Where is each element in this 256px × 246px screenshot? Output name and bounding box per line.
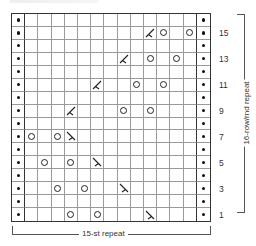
purl-dot-icon: [17, 18, 20, 21]
chart-cell: [144, 14, 157, 27]
chart-cell: [184, 195, 197, 208]
decrease-right-icon: [119, 183, 129, 193]
chart-cell: [38, 53, 51, 66]
chart-cell: [131, 27, 144, 40]
chart-cell: [184, 105, 197, 118]
chart-cell: [170, 79, 183, 92]
chart-cell: [25, 118, 38, 131]
chart-cell: [184, 143, 197, 156]
chart-cell: [12, 169, 25, 182]
purl-dot-icon: [17, 44, 20, 47]
chart-cell: [78, 156, 91, 169]
purl-dot-icon: [17, 200, 20, 203]
chart-cell: [144, 208, 157, 221]
purl-dot-icon: [202, 148, 205, 151]
row-repeat-label: 16-row/rnd repeat: [242, 79, 251, 146]
chart-cell: [131, 14, 144, 27]
chart-cell: [104, 169, 117, 182]
chart-cell: [104, 40, 117, 53]
purl-dot-icon: [202, 213, 205, 216]
chart-cell: [91, 208, 104, 221]
chart-cell: [91, 14, 104, 27]
chart-cell: [52, 130, 65, 143]
chart-cell: [157, 169, 170, 182]
chart-cell: [78, 118, 91, 131]
chart-cell: [38, 118, 51, 131]
chart-cell: [12, 118, 25, 131]
row-number-label: 11: [219, 80, 228, 90]
knitting-chart-grid: [11, 13, 211, 222]
chart-cell: [91, 92, 104, 105]
chart-cell: [78, 40, 91, 53]
chart-cell: [118, 195, 131, 208]
chart-cell: [38, 143, 51, 156]
chart-cell: [184, 208, 197, 221]
chart-cell: [104, 53, 117, 66]
chart-cell: [131, 79, 144, 92]
decrease-left-icon: [66, 106, 76, 116]
chart-cell: [197, 14, 210, 27]
chart-cell: [157, 79, 170, 92]
chart-cell: [91, 105, 104, 118]
chart-cell: [197, 130, 210, 143]
chart-cell: [144, 27, 157, 40]
chart-cell: [52, 208, 65, 221]
chart-cell: [170, 27, 183, 40]
chart-cell: [25, 182, 38, 195]
chart-cell: [91, 130, 104, 143]
chart-cell: [78, 105, 91, 118]
chart-cell: [197, 92, 210, 105]
chart-cell: [78, 14, 91, 27]
chart-cell: [65, 130, 78, 143]
chart-cell: [78, 143, 91, 156]
chart-cell: [91, 53, 104, 66]
chart-cell: [131, 53, 144, 66]
purl-dot-icon: [17, 213, 20, 216]
decrease-right-icon: [145, 210, 155, 220]
chart-cell: [184, 169, 197, 182]
chart-cell: [12, 14, 25, 27]
chart-cell: [144, 156, 157, 169]
chart-cell: [184, 130, 197, 143]
chart-cell: [52, 27, 65, 40]
chart-cell: [197, 105, 210, 118]
chart-cell: [157, 156, 170, 169]
chart-cell: [25, 105, 38, 118]
chart-cell: [91, 169, 104, 182]
chart-cell: [170, 92, 183, 105]
purl-dot-icon: [17, 31, 20, 34]
stitch-repeat-label: 15-st repeat: [79, 229, 128, 238]
chart-cell: [144, 66, 157, 79]
yarn-over-icon: [28, 133, 35, 140]
chart-cell: [170, 169, 183, 182]
chart-cell: [65, 195, 78, 208]
chart-cell: [104, 14, 117, 27]
chart-cell: [104, 105, 117, 118]
chart-cell: [25, 14, 38, 27]
chart-cell: [144, 130, 157, 143]
chart-cell: [25, 53, 38, 66]
chart-cell: [12, 79, 25, 92]
chart-cell: [78, 79, 91, 92]
chart-cell: [157, 66, 170, 79]
chart-cell: [12, 130, 25, 143]
chart-cell: [131, 208, 144, 221]
row-number-label: 15: [219, 28, 228, 38]
chart-cell: [131, 143, 144, 156]
decrease-left-icon: [92, 80, 102, 90]
decrease-right-icon: [92, 157, 102, 167]
chart-cell: [170, 130, 183, 143]
chart-cell: [184, 156, 197, 169]
chart-cell: [197, 208, 210, 221]
chart-cell: [157, 208, 170, 221]
row-number-label: 5: [219, 158, 224, 168]
chart-cell: [144, 92, 157, 105]
purl-dot-icon: [202, 83, 205, 86]
chart-cell: [12, 182, 25, 195]
purl-dot-icon: [202, 161, 205, 164]
chart-cell: [78, 92, 91, 105]
decrease-right-icon: [66, 131, 76, 141]
chart-cell: [131, 40, 144, 53]
chart-cell: [78, 182, 91, 195]
chart-cell: [12, 66, 25, 79]
